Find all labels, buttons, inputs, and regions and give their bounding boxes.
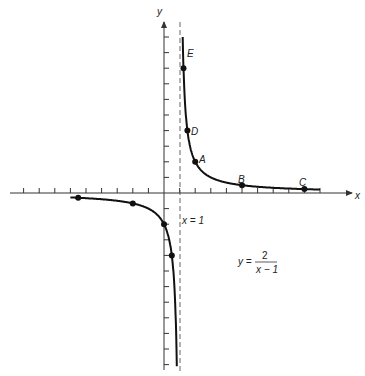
data-point: [75, 195, 81, 201]
data-point: [169, 252, 175, 258]
data-point: [161, 221, 167, 227]
y-axis-ticks: [164, 37, 169, 365]
label-E: E: [187, 48, 194, 59]
label-D: D: [191, 126, 198, 137]
equation-numerator: 2: [262, 250, 268, 261]
asymptote-label: x = 1: [181, 215, 204, 226]
data-points: [75, 65, 307, 258]
label-A: A: [198, 154, 206, 165]
equation-denominator: x − 1: [255, 264, 278, 275]
x-axis-label: x: [354, 190, 361, 201]
curve-right-branch: [183, 37, 320, 190]
hyperbola-graph: y x E D A B C x = 1 y = 2 x − 1: [0, 0, 365, 376]
data-point: [192, 159, 198, 165]
equation-lhs: y =: [237, 256, 252, 267]
data-point: [184, 128, 190, 134]
curve-left-branch: [70, 198, 176, 367]
label-C: C: [299, 177, 307, 188]
data-point: [181, 65, 187, 71]
label-B: B: [238, 174, 245, 185]
y-axis-label: y: [156, 6, 163, 17]
data-point: [130, 200, 136, 206]
